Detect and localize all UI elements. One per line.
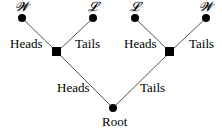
root-node [109,104,117,112]
root-label: Root [102,114,128,129]
decision-node-left [52,47,61,56]
edge-label: Heads [124,36,157,51]
edge-label: Tails [189,36,214,51]
edge-label: Heads [10,36,43,51]
tree-edges [22,18,206,108]
leaf-label: 𝓛 [130,0,143,14]
leaf-node [202,14,210,22]
leaf-node [18,14,26,22]
game-tree-diagram: 𝓦 𝓛 𝓛 𝓦 Heads Tails Heads Tails Heads Ta… [0,0,222,134]
edge-label: Tails [140,80,165,95]
decision-node-right [165,47,174,56]
leaf-label: 𝓦 [15,0,32,14]
edge-label: Heads [57,80,90,95]
leaf-label: 𝓦 [199,0,216,14]
leaf-node [131,14,139,22]
edge-label: Tails [75,36,100,51]
leaf-label: 𝓛 [88,0,101,14]
leaf-node [89,14,97,22]
